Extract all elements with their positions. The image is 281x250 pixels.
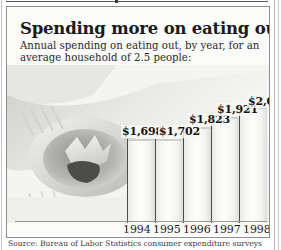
page-gutter-rule-left [1, 0, 2, 250]
x-tick-1996: 1996 [183, 223, 211, 236]
x-tick-1997: 1997 [213, 223, 241, 236]
x-tick-1998: 1998 [243, 223, 270, 236]
bar-1994 [127, 139, 155, 223]
bar-1996 [183, 127, 211, 223]
bar-1995 [155, 139, 183, 223]
top-crop-tick [115, 0, 118, 3]
source-note: Source: Bureau of Labor Statistics consu… [8, 239, 278, 248]
bar-value-label-1998: $2,030 [247, 95, 270, 108]
chart-subtitle: Annual spending on eating out, by year, … [20, 40, 270, 65]
page-gutter-rule-right-outer [278, 0, 279, 250]
bar-1997 [211, 117, 239, 223]
x-axis-baseline [15, 221, 267, 222]
chart-plot-area: $1,698 $1,702 $1,823 $1,921 $2,030 [7, 65, 270, 223]
x-tick-1994: 1994 [123, 223, 151, 236]
x-axis-tick-labels: 1994 1995 1996 1997 1998 [7, 223, 270, 238]
x-tick-1995: 1995 [153, 223, 181, 236]
bar-series: $1,698 $1,702 $1,823 $1,921 $2,030 [7, 65, 270, 223]
bar-1998 [239, 107, 267, 223]
page-title: Spending more on eating out [20, 19, 266, 38]
infographic-frame: Spending more on eating out Annual spend… [6, 6, 270, 238]
page-gutter-rule-right-inner [274, 0, 275, 250]
top-crop-rule [6, 1, 268, 2]
infographic-root: Spending more on eating out Annual spend… [0, 0, 281, 250]
bar-value-label-1995: $1,702 [158, 125, 201, 138]
